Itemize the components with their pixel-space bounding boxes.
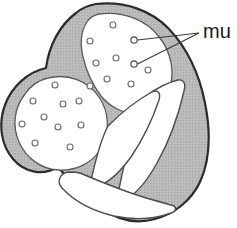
chamber-dot xyxy=(32,140,38,146)
heart-cross-section-figure: mu xyxy=(0,0,237,228)
lower-chamber-cavity xyxy=(15,77,107,171)
chamber-dot xyxy=(128,81,134,87)
chamber-dot xyxy=(76,98,82,104)
chamber-dot xyxy=(52,82,58,88)
chamber-dot xyxy=(93,60,99,66)
chamber-dot xyxy=(30,98,36,104)
chamber-dot xyxy=(104,76,110,82)
chamber-dot xyxy=(110,22,116,28)
chamber-dot-labeled-upper xyxy=(131,37,137,43)
chamber-dot xyxy=(87,83,93,89)
chamber-dot xyxy=(41,114,47,120)
chamber-dot xyxy=(55,124,61,130)
chamber-dot-labeled-lower xyxy=(131,61,137,67)
chamber-dot xyxy=(145,67,151,73)
chamber-dot xyxy=(113,55,119,61)
muscle-label: mu xyxy=(203,21,231,41)
chamber-dot xyxy=(67,144,73,150)
heart-diagram-svg xyxy=(0,0,237,228)
chamber-dot xyxy=(19,121,25,127)
chamber-dot xyxy=(87,38,93,44)
chamber-dot xyxy=(78,122,84,128)
chamber-dot xyxy=(60,101,66,107)
